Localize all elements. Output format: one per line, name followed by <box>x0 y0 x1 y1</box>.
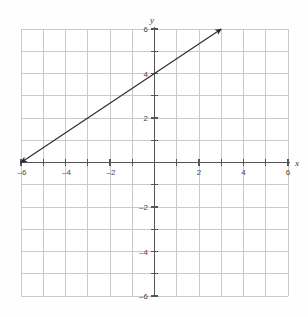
y-tick-label: –4 <box>139 248 148 257</box>
y-tick-label: –6 <box>139 292 148 301</box>
x-axis-title: x <box>294 158 299 168</box>
x-tick-label: –2 <box>107 168 116 177</box>
x-tick-label: 6 <box>286 168 291 177</box>
x-tick-label: 2 <box>197 168 202 177</box>
y-tick-label: 4 <box>144 70 149 79</box>
y-tick-label: 2 <box>144 114 149 123</box>
x-tick-label: –6 <box>18 168 27 177</box>
y-tick-label: –2 <box>139 203 148 212</box>
y-tick-label: 6 <box>144 25 149 34</box>
x-tick-label: –4 <box>62 168 71 177</box>
y-axis-title: y <box>149 15 154 25</box>
x-tick-label: 4 <box>241 168 246 177</box>
graph-canvas: –6 –4 –2 2 4 6 6 4 2 –2 –4 –6 x y <box>0 0 308 317</box>
coordinate-plane-figure: –6 –4 –2 2 4 6 6 4 2 –2 –4 –6 x y <box>0 0 308 317</box>
